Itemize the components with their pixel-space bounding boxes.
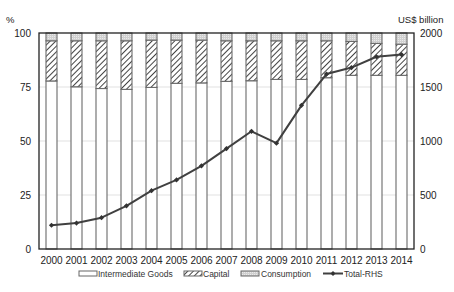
bar-segment-consumption [121, 33, 132, 41]
stacked-bar-line-chart: % 0255075100 US$ billion 050010001500200… [0, 0, 454, 292]
left-axis: % 0255075100 [6, 14, 31, 255]
bar-segment-capital [121, 41, 132, 90]
left-tick-label: 25 [20, 190, 32, 201]
legend-swatch-capital [184, 271, 202, 276]
bar-segment-consumption [396, 33, 407, 44]
bar-segment-consumption [246, 33, 257, 41]
bar-segment-capital [346, 41, 357, 75]
bar-segment-intermediate-goods [246, 81, 257, 249]
right-tick-label: 1500 [420, 82, 443, 93]
legend-item-capital: Capital [184, 269, 230, 279]
chart-container: % 0255075100 US$ billion 050010001500200… [0, 0, 454, 292]
bar-segment-consumption [46, 33, 57, 41]
bar-segment-consumption [321, 33, 332, 41]
bar-segment-consumption [196, 33, 207, 40]
bar-2001 [71, 33, 82, 249]
right-axis-unit: US$ billion [398, 14, 443, 25]
bar-segment-capital [46, 41, 57, 81]
right-tick-label: 1000 [420, 136, 443, 147]
bar-2011 [321, 33, 332, 249]
bar-2003 [121, 33, 132, 249]
legend-label-consumption: Consumption [261, 269, 311, 279]
x-tick-label: 2006 [190, 255, 213, 266]
bar-2010 [296, 33, 307, 249]
legend-label-capital: Capital [203, 269, 230, 279]
bar-2007 [221, 33, 232, 249]
legend-item-total-rhs: Total-RHS [323, 269, 383, 279]
bar-2005 [171, 33, 182, 249]
x-tick-label: 2011 [316, 255, 338, 266]
legend-item-intermediate-goods: Intermediate Goods [79, 269, 173, 279]
bar-2006 [196, 33, 207, 249]
x-tick-label: 2000 [40, 255, 63, 266]
bar-segment-consumption [346, 33, 357, 41]
bar-segment-consumption [71, 33, 82, 41]
x-tick-label: 2005 [165, 255, 188, 266]
right-tick-label: 0 [420, 244, 426, 255]
bar-segment-intermediate-goods [96, 89, 107, 249]
x-tick-label: 2002 [90, 255, 113, 266]
bar-segment-capital [246, 41, 257, 81]
bar-segment-consumption [296, 33, 307, 41]
x-tick-label: 2014 [390, 255, 413, 266]
bar-segment-consumption [371, 33, 382, 43]
x-tick-label: 2012 [340, 255, 363, 266]
bar-segment-intermediate-goods [271, 79, 282, 249]
x-tick-label: 2004 [140, 255, 163, 266]
bar-segment-intermediate-goods [146, 87, 157, 249]
bar-segment-intermediate-goods [346, 75, 357, 249]
bar-segment-capital [96, 41, 107, 89]
bar-2014 [396, 33, 407, 249]
bar-segment-consumption [146, 33, 157, 40]
legend-swatch-intermediate [79, 271, 97, 276]
legend: Intermediate Goods Capital Consumption T… [79, 269, 383, 279]
bar-segment-consumption [171, 33, 182, 40]
bar-segment-capital [146, 40, 157, 87]
bar-segment-capital [296, 41, 307, 80]
bar-segment-intermediate-goods [371, 75, 382, 249]
x-tick-label: 2008 [240, 255, 263, 266]
bar-segment-intermediate-goods [321, 78, 332, 249]
left-tick-label: 0 [25, 244, 31, 255]
bar-segment-capital [221, 41, 232, 82]
left-tick-label: 50 [20, 136, 32, 147]
legend-swatch-consumption [241, 271, 259, 276]
left-axis-unit: % [6, 14, 15, 25]
right-tick-label: 500 [420, 190, 437, 201]
x-tick-label: 2013 [365, 255, 388, 266]
bar-2008 [246, 33, 257, 249]
bar-2004 [146, 33, 157, 249]
bar-segment-intermediate-goods [171, 83, 182, 249]
x-tick-label: 2010 [290, 255, 313, 266]
legend-label-total: Total-RHS [344, 269, 383, 279]
left-tick-label: 75 [20, 82, 32, 93]
left-tick-label: 100 [14, 28, 31, 39]
bar-segment-consumption [271, 33, 282, 41]
bar-segment-intermediate-goods [221, 81, 232, 249]
right-tick-label: 2000 [420, 28, 443, 39]
bar-segment-capital [71, 41, 82, 87]
x-tick-label: 2001 [65, 255, 88, 266]
x-tick-label: 2009 [265, 255, 288, 266]
bar-segment-capital [196, 40, 207, 83]
legend-item-consumption: Consumption [241, 269, 311, 279]
legend-label-intermediate: Intermediate Goods [98, 269, 173, 279]
bar-segment-capital [171, 40, 182, 83]
x-tick-label: 2003 [115, 255, 138, 266]
x-axis-labels: 2000200120022003200420052006200720082009… [40, 255, 413, 266]
bar-segment-intermediate-goods [121, 89, 132, 249]
x-tick-label: 2007 [215, 255, 238, 266]
bar-segment-intermediate-goods [396, 75, 407, 249]
bar-segment-capital [396, 44, 407, 75]
bar-2013 [371, 33, 382, 249]
bar-2000 [46, 33, 57, 249]
bar-segment-capital [271, 41, 282, 80]
bar-segment-consumption [96, 33, 107, 41]
bar-segment-consumption [221, 33, 232, 41]
diamond-marker-icon [331, 271, 336, 276]
